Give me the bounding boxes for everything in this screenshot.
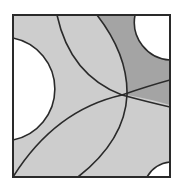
- geometric-diagram: [0, 0, 177, 185]
- diagram-canvas: [0, 0, 177, 185]
